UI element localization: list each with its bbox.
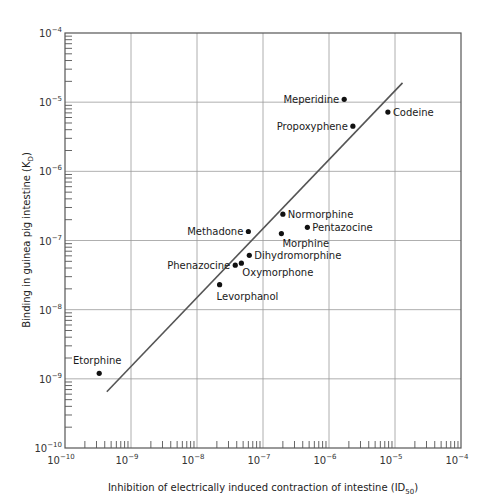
- point-marker: [97, 371, 102, 376]
- data-point-normorphine: Normorphine: [280, 209, 353, 220]
- y-axis-title: Binding in guinea pig intestine (KD): [21, 152, 35, 328]
- point-marker: [246, 229, 251, 234]
- data-point-oxymorphone: Oxymorphone: [239, 261, 314, 279]
- point-marker: [305, 225, 310, 230]
- point-label: Pentazocine: [312, 222, 372, 233]
- point-marker: [342, 97, 347, 102]
- point-marker: [279, 231, 284, 236]
- point-label: Phenazocine: [167, 260, 230, 271]
- point-label: Normorphine: [288, 209, 353, 220]
- point-marker: [350, 124, 355, 129]
- grid-lines: [65, 33, 461, 448]
- x-tick-label: 10−8: [181, 453, 204, 466]
- point-marker: [385, 109, 390, 114]
- point-marker: [280, 212, 285, 217]
- y-tick-label: 10−6: [39, 164, 63, 177]
- x-tick-label: 10−4: [445, 453, 469, 466]
- x-tick-label: 10−5: [379, 453, 402, 466]
- point-label: Propoxyphene: [277, 121, 348, 132]
- data-point-propoxyphene: Propoxyphene: [277, 121, 356, 132]
- data-point-dihydromorphine: Dihydromorphine: [247, 250, 342, 261]
- data-point-methadone: Methadone: [187, 226, 251, 237]
- y-tick-label: 10−9: [39, 372, 62, 385]
- point-label: Etorphine: [73, 355, 121, 366]
- y-tick-label: 10−10: [34, 441, 62, 454]
- point-label: Meperidine: [283, 94, 339, 105]
- point-label: Dihydromorphine: [254, 250, 341, 261]
- data-point-meperidine: Meperidine: [283, 94, 346, 105]
- y-tick-label: 10−7: [39, 234, 62, 247]
- x-tick-label: 10−9: [115, 453, 138, 466]
- data-point-morphine: Morphine: [279, 231, 329, 249]
- point-marker: [239, 261, 244, 266]
- x-axis-title: Inhibition of electrically induced contr…: [108, 482, 418, 496]
- x-axis-tick-labels: 10−1010−910−810−710−610−510−4: [47, 453, 469, 466]
- data-point-phenazocine: Phenazocine: [167, 260, 238, 271]
- minor-ticks: [65, 36, 458, 448]
- y-tick-label: 10−4: [39, 26, 63, 39]
- point-label: Oxymorphone: [242, 267, 313, 278]
- x-tick-label: 10−6: [313, 453, 337, 466]
- regression-line: [107, 83, 403, 392]
- point-marker: [247, 253, 252, 258]
- point-marker: [217, 282, 222, 287]
- y-tick-label: 10−8: [39, 303, 62, 316]
- point-label: Morphine: [282, 238, 329, 249]
- y-axis-tick-labels: 10−1010−910−810−710−610−510−4: [34, 26, 62, 454]
- data-point-pentazocine: Pentazocine: [305, 222, 373, 233]
- data-point-codeine: Codeine: [385, 107, 433, 118]
- scatter-chart: 10−1010−910−810−710−610−510−4 10−1010−91…: [0, 0, 490, 502]
- point-marker: [233, 263, 238, 268]
- x-tick-label: 10−10: [47, 453, 75, 466]
- y-tick-label: 10−5: [39, 95, 62, 108]
- point-label: Codeine: [393, 107, 434, 118]
- point-label: Methadone: [187, 226, 243, 237]
- point-label: Levorphanol: [217, 291, 279, 302]
- x-tick-label: 10−7: [247, 453, 270, 466]
- data-point-levorphanol: Levorphanol: [217, 282, 279, 302]
- data-point-etorphine: Etorphine: [73, 355, 121, 376]
- data-points: EtorphineLevorphanolPhenazocineOxymorpho…: [73, 94, 434, 376]
